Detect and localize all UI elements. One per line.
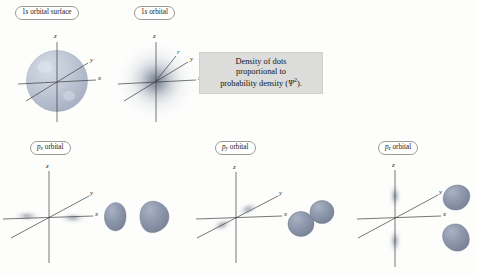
orbital-figure: z y x z r y x z y x z y x z y x 1s orbit… (0, 0, 478, 274)
axis-label-x: x (98, 75, 101, 82)
axis-label-z: z (392, 162, 395, 169)
panel-1s-orbital-graphic (118, 42, 196, 122)
label-py-orbital: py orbital (215, 141, 256, 155)
panel-pz-orbital-graphic (357, 170, 470, 267)
panel-py-orbital-graphic (196, 172, 334, 263)
figure-canvas (0, 0, 478, 274)
axis-label-y: y (190, 56, 193, 63)
note-line-2: proportional to (206, 67, 316, 77)
panel-1s-orbital-surface-graphic (18, 42, 96, 122)
axis-label-x: x (443, 211, 446, 218)
label-pz-orbital: pz orbital (378, 141, 418, 155)
axis-label-y: y (90, 57, 93, 64)
axis-label-z: z (54, 33, 57, 40)
note-line-1: Density of dots (206, 57, 316, 67)
axis-label-r: r (177, 49, 180, 56)
axis-label-z: z (153, 33, 156, 40)
axis-label-y: y (90, 190, 93, 197)
axis-label-x: x (95, 211, 98, 218)
label-1s-orbital: 1s orbital (134, 6, 175, 20)
label-1s-orbital-surface: 1s orbital surface (15, 6, 79, 20)
axis-label-x: x (284, 211, 287, 218)
label-px-orbital: px orbital (30, 141, 71, 155)
note-line-3: probability density (Ψ2). (206, 77, 316, 89)
density-note-box: Density of dots proportional to probabil… (199, 52, 323, 94)
axis-label-y: y (279, 190, 282, 197)
axis-label-z: z (46, 163, 49, 170)
axis-label-y: y (439, 189, 442, 196)
panel-px-orbital-graphic (3, 171, 169, 263)
axis-label-z: z (233, 164, 236, 171)
